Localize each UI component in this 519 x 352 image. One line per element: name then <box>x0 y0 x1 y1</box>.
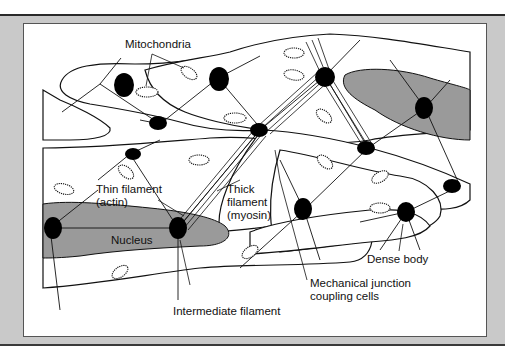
label-intermediate-filament: Intermediate filament <box>173 305 280 318</box>
label-dense-body: Dense body <box>367 253 428 266</box>
label-thin-filament: Thin filament (actin) <box>96 183 162 209</box>
label-mechanical-junction-line1: Mechanical junction <box>310 277 411 290</box>
label-thick-filament: Thick filament (myosin) <box>227 183 271 222</box>
label-nucleus: Nucleus <box>111 234 153 247</box>
label-mechanical-junction: Mechanical junction coupling cells <box>310 277 411 303</box>
label-mechanical-junction-line2: coupling cells <box>310 290 411 303</box>
label-thick-filament-line2: filament <box>227 196 271 209</box>
label-thick-filament-line3: (myosin) <box>227 209 271 222</box>
label-thin-filament-line2: (actin) <box>96 196 162 209</box>
label-mitochondria: Mitochondria <box>125 38 191 51</box>
smooth-muscle-diagram <box>0 0 519 352</box>
label-thick-filament-line1: Thick <box>227 183 271 196</box>
label-thin-filament-line1: Thin filament <box>96 183 162 196</box>
